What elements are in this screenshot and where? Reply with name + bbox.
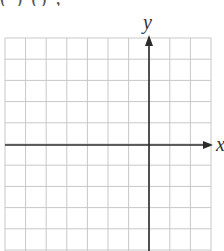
- y-axis-label: y: [143, 12, 152, 32]
- x-axis: [5, 141, 213, 149]
- y-axis-arrowhead-icon: [145, 35, 153, 46]
- x-axis-label: x: [216, 134, 224, 154]
- coordinate-plane: [0, 0, 224, 251]
- y-axis: [145, 35, 153, 251]
